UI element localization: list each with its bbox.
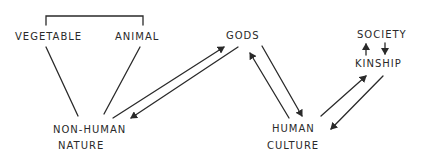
arrow-nonhuman-to-gods [113, 47, 224, 118]
node-non-human-line1: NON-HUMAN [53, 124, 126, 135]
node-animal: ANIMAL [115, 31, 159, 42]
node-kinship: KINSHIP [355, 58, 402, 69]
node-non-human-line2: NATURE [58, 140, 104, 151]
bracket-vegetable-animal [46, 16, 143, 25]
diagram-connectors [0, 0, 425, 160]
node-human-line2: CULTURE [267, 140, 319, 151]
arrow-human-to-gods [250, 53, 289, 118]
node-human-line1: HUMAN [272, 123, 315, 134]
node-vegetable: VEGETABLE [15, 31, 82, 42]
diagram-canvas: VEGETABLE ANIMAL GODS SOCIETY KINSHIP NO… [0, 0, 425, 160]
line-vegetable-nonhuman [46, 47, 78, 116]
arrow-gods-to-nonhuman [131, 47, 238, 118]
node-society: SOCIETY [357, 29, 407, 40]
node-gods: GODS [226, 30, 260, 41]
arrow-human-to-kinship [321, 76, 366, 116]
